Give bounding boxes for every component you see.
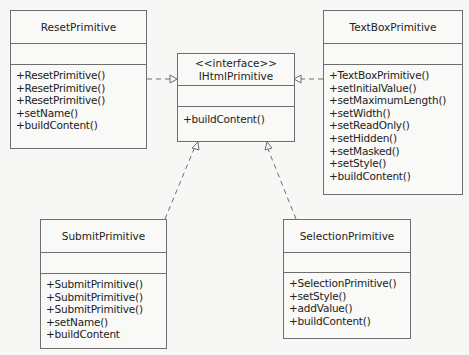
operations-compartment: +SubmitPrimitive() +SubmitPrimitive() +S… <box>41 274 166 341</box>
interface-ihtml-primitive: <<interface>> IHtmlPrimitive +buildConte… <box>177 53 295 142</box>
operation: +SubmitPrimitive() <box>46 291 166 304</box>
operation: +setStyle() <box>329 157 462 170</box>
realization-arrowhead-icon <box>265 142 272 150</box>
operation: +setReadOnly() <box>329 119 462 132</box>
class-name: IHtmlPrimitive <box>199 70 274 83</box>
realization-submit-line <box>165 149 194 219</box>
operation: +buildContent() <box>16 119 146 132</box>
operation: +setInitialValue() <box>329 82 462 95</box>
class-name-compartment: SubmitPrimitive <box>41 220 166 253</box>
class-name-compartment: <<interface>> IHtmlPrimitive <box>178 54 294 86</box>
operation: +ResetPrimitive() <box>16 82 146 95</box>
operation: +buildContent() <box>329 170 462 183</box>
operation: +setStyle() <box>289 290 410 303</box>
operation: +setMaximumLength() <box>329 94 462 107</box>
operation: +buildContent <box>46 328 166 341</box>
operations-compartment: +SelectionPrimitive() +setStyle() +addVa… <box>284 273 410 327</box>
operation: +SubmitPrimitive() <box>46 278 166 291</box>
operation: +setWidth() <box>329 107 462 120</box>
class-name: ResetPrimitive <box>41 21 117 34</box>
class-reset-primitive: ResetPrimitive +ResetPrimitive() +ResetP… <box>10 10 147 149</box>
operations-compartment: +TextBoxPrimitive() +setInitialValue() +… <box>324 65 462 182</box>
operation: +ResetPrimitive() <box>16 94 146 107</box>
operation: +setName() <box>16 107 146 120</box>
operation: +TextBoxPrimitive() <box>329 69 462 82</box>
class-selection-primitive: SelectionPrimitive +SelectionPrimitive()… <box>283 219 411 339</box>
operation: +buildContent() <box>183 113 294 126</box>
operation: +SelectionPrimitive() <box>289 277 410 290</box>
class-submit-primitive: SubmitPrimitive +SubmitPrimitive() +Subm… <box>40 219 167 349</box>
realization-arrowhead-icon <box>294 75 301 83</box>
attributes-compartment <box>178 86 294 107</box>
class-name: SubmitPrimitive <box>62 230 145 243</box>
realization-selection-line <box>268 149 296 219</box>
realization-arrowhead-icon <box>192 142 199 150</box>
realization-arrowhead-icon <box>170 75 177 83</box>
operation: +SubmitPrimitive() <box>46 303 166 316</box>
operations-compartment: +buildContent() <box>178 107 294 126</box>
class-name-compartment: TextBoxPrimitive <box>324 11 462 44</box>
attributes-compartment <box>11 44 146 65</box>
attributes-compartment <box>41 253 166 274</box>
operation: +addValue() <box>289 302 410 315</box>
class-name-compartment: SelectionPrimitive <box>284 220 410 253</box>
operations-compartment: +ResetPrimitive() +ResetPrimitive() +Res… <box>11 65 146 132</box>
attributes-compartment <box>324 44 462 65</box>
attributes-compartment <box>284 253 410 273</box>
operation: +ResetPrimitive() <box>16 69 146 82</box>
stereotype-label: <<interface>> <box>195 57 277 70</box>
class-name: TextBoxPrimitive <box>350 21 437 34</box>
operation: +setName() <box>46 316 166 329</box>
class-name-compartment: ResetPrimitive <box>11 11 146 44</box>
class-name: SelectionPrimitive <box>300 230 395 243</box>
operation: +setMasked() <box>329 145 462 158</box>
class-textbox-primitive: TextBoxPrimitive +TextBoxPrimitive() +se… <box>323 10 463 195</box>
operation: +setHidden() <box>329 132 462 145</box>
operation: +buildContent() <box>289 315 410 328</box>
